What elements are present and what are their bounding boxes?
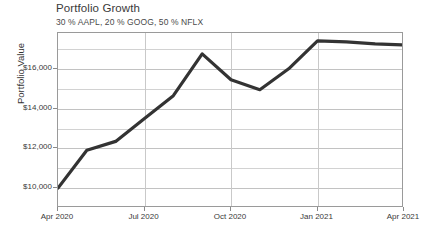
x-axis-tick-mark (230, 207, 231, 211)
y-axis-title: Portfolio Value (15, 24, 26, 124)
chart-container: Portfolio Growth 30 % AAPL, 20 % GOOG, 5… (0, 0, 424, 233)
x-axis-tick-label: Apr 2021 (387, 212, 419, 221)
x-axis-tick-mark (403, 207, 404, 211)
x-axis-tick-label: Jan 2021 (300, 212, 333, 221)
y-axis-tick-label: $16,000 (0, 63, 52, 72)
y-axis-tick-label: $14,000 (0, 103, 52, 112)
chart-subtitle: 30 % AAPL, 20 % GOOG, 50 % NFLX (56, 17, 203, 27)
x-axis-tick-mark (317, 207, 318, 211)
y-axis-tick-label: $10,000 (0, 182, 52, 191)
plot-area (57, 32, 403, 207)
series-portfolio-value (58, 33, 403, 207)
y-axis-tick-label: $12,000 (0, 142, 52, 151)
x-axis-tick-mark (144, 207, 145, 211)
chart-title: Portfolio Growth (56, 2, 140, 14)
x-axis-tick-label: Oct 2020 (214, 212, 246, 221)
x-axis-tick-label: Apr 2020 (41, 212, 73, 221)
x-axis-tick-label: Jul 2020 (128, 212, 158, 221)
x-axis-tick-mark (57, 207, 58, 211)
